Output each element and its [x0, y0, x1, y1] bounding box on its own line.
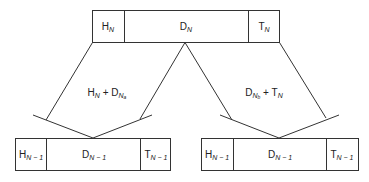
top-trailer-label: TN	[258, 22, 269, 33]
top-data-label: DN	[180, 22, 192, 33]
bottom-right-header-label: HN − 1	[205, 150, 229, 161]
bottom-right-data-label: DN − 1	[268, 150, 292, 161]
bottom-right-trailer-label: TN − 1	[330, 150, 353, 161]
bottom-left-header-label: HN − 1	[19, 150, 43, 161]
bottom-left-trailer-label: TN − 1	[144, 150, 167, 161]
right-branch-label: DNb + TN	[245, 88, 282, 100]
left-branch-outer-line	[46, 43, 93, 121]
right-funnel-v	[220, 115, 339, 138]
right-branch-inner-line	[185, 43, 232, 121]
left-branch-label: HN + DNa	[88, 88, 127, 100]
bottom-left-data-label: DN − 1	[82, 150, 106, 161]
top-header-label: HN	[102, 22, 114, 33]
left-funnel-v	[33, 115, 152, 138]
right-branch-outer-line	[280, 43, 327, 119]
left-branch-inner-line	[140, 43, 185, 120]
